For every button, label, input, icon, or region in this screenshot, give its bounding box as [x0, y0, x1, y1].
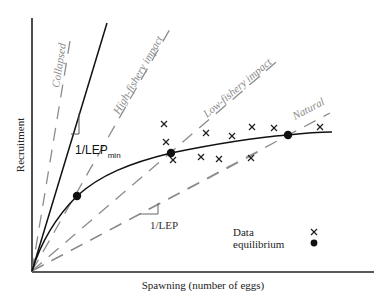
lep-min-label: 1/LEPmin [75, 143, 121, 160]
legend: Data equilibrium [233, 226, 317, 250]
diagram-canvas: Collapsed High-fishery impact Low-fisher… [0, 0, 388, 301]
collapsed-label: Collapsed [49, 42, 68, 88]
data-points [161, 121, 323, 163]
data-point-x-marker [271, 125, 277, 131]
data-point-x-marker [203, 130, 209, 136]
equilibrium-points [73, 131, 292, 200]
data-point-x-marker [216, 156, 222, 162]
low-fishery-label: Low-fishery impact [200, 55, 275, 120]
data-point-x-marker [170, 157, 176, 163]
legend-data-label: Data [233, 226, 254, 238]
natural-label: Natural [289, 95, 326, 122]
data-point-x-marker [163, 139, 169, 145]
equilibrium-dot [284, 131, 292, 139]
x-axis-label: Spawning (number of eggs) [142, 279, 265, 292]
data-point-x-marker [229, 133, 235, 139]
legend-equilibrium-label: equilibrium [233, 238, 285, 250]
equilibrium-dot [167, 149, 175, 157]
equilibrium-dot [73, 192, 81, 200]
legend-dot-marker-icon [311, 240, 318, 247]
high-fishery-label: High-fishery impact [110, 33, 166, 117]
data-point-x-marker [317, 124, 323, 130]
lep-label: 1/LEP [150, 219, 178, 231]
legend-x-marker-icon [311, 229, 317, 235]
y-axis-label: Recruitment [14, 118, 26, 172]
data-point-x-marker [161, 121, 167, 127]
data-point-x-marker [198, 154, 204, 160]
stock-recruitment-diagram: Collapsed High-fishery impact Low-fisher… [0, 0, 388, 301]
data-point-x-marker [249, 124, 255, 130]
